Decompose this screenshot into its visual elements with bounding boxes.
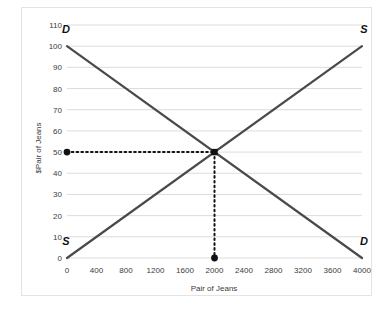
y-axis-tick-label: 0 bbox=[58, 254, 63, 263]
supply-demand-chart: 0102030405060708090100110 04008001200160… bbox=[0, 0, 391, 316]
x-axis-tick-label: 1200 bbox=[147, 266, 165, 275]
x-axis-tick-label: 0 bbox=[65, 266, 70, 275]
y-axis-tick-label: 20 bbox=[53, 212, 62, 221]
y-axis-tick-label: 80 bbox=[53, 85, 62, 94]
x-axis-tick-label: 2400 bbox=[235, 266, 253, 275]
x-axis-tick-label: 3600 bbox=[324, 266, 342, 275]
equilibrium-quantity-marker bbox=[211, 255, 218, 262]
curve-label-top-right: S bbox=[360, 23, 368, 35]
y-axis-tick-label: 70 bbox=[53, 106, 62, 115]
y-axis-tick-labels: 0102030405060708090100110 bbox=[49, 21, 63, 263]
x-axis-tick-label: 400 bbox=[90, 266, 104, 275]
curve-label-bottom-left: S bbox=[62, 235, 70, 247]
curve-label-top-left: D bbox=[62, 23, 70, 35]
x-axis-tick-label: 4000 bbox=[353, 266, 371, 275]
x-axis-tick-label: 1600 bbox=[176, 266, 194, 275]
y-axis-tick-label: 40 bbox=[53, 169, 62, 178]
x-axis-tick-labels: 040080012001600200024002800320036004000 bbox=[65, 266, 372, 275]
x-axis-tick-label: 2000 bbox=[206, 266, 224, 275]
curve-labels-group: DSSD bbox=[62, 23, 368, 247]
equilibrium-point bbox=[211, 149, 217, 155]
y-axis-tick-label: 60 bbox=[53, 127, 62, 136]
curve-label-bottom-right: D bbox=[360, 235, 368, 247]
x-axis-title: Pair of Jeans bbox=[191, 284, 238, 293]
x-axis-tick-label: 2800 bbox=[265, 266, 283, 275]
y-axis-tick-label: 50 bbox=[53, 148, 62, 157]
y-axis-tick-label: 30 bbox=[53, 190, 62, 199]
y-axis-tick-label: 90 bbox=[53, 63, 62, 72]
y-axis-title: $Pair of Jeans bbox=[34, 122, 43, 173]
x-axis-tick-label: 800 bbox=[119, 266, 133, 275]
x-axis-tick-label: 3200 bbox=[294, 266, 312, 275]
gridlines-group bbox=[67, 25, 362, 258]
chart-svg: 0102030405060708090100110 04008001200160… bbox=[0, 0, 391, 316]
equilibrium-price-marker bbox=[64, 149, 71, 156]
y-axis-tick-label: 100 bbox=[49, 42, 63, 51]
y-axis-tick-label: 110 bbox=[49, 21, 62, 30]
y-axis-tick-label: 10 bbox=[53, 233, 62, 242]
